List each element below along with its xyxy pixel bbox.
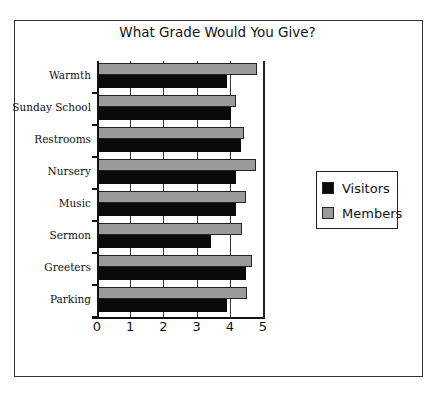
members-bar — [98, 287, 247, 299]
category-label: Sunday School — [0, 101, 91, 113]
visitors-bar — [98, 299, 227, 312]
visitors-bar — [98, 75, 227, 88]
members-bar — [98, 127, 244, 139]
visitors-bar — [98, 267, 246, 280]
category-label: Greeters — [0, 261, 91, 273]
visitors-bar — [98, 139, 241, 152]
members-bar — [98, 159, 256, 171]
right-border-line — [263, 61, 265, 318]
visitors-swatch-icon — [322, 182, 334, 194]
x-tick-label: 4 — [220, 319, 240, 334]
y-axis — [97, 61, 99, 319]
category-label: Nursery — [0, 165, 91, 177]
x-axis — [92, 317, 265, 319]
x-tick-label: 5 — [253, 319, 273, 334]
x-tick-label: 1 — [120, 319, 140, 334]
members-bar — [98, 63, 257, 75]
legend: Visitors Members — [316, 171, 398, 229]
category-label: Warmth — [0, 69, 91, 81]
x-tick-label: 2 — [153, 319, 173, 334]
members-bar — [98, 95, 236, 107]
x-tick-label: 0 — [87, 319, 107, 334]
category-label: Sermon — [0, 229, 91, 241]
visitors-bar — [98, 203, 236, 216]
chart-title: What Grade Would You Give? — [0, 24, 435, 40]
category-label: Music — [0, 197, 91, 209]
category-label: Restrooms — [0, 133, 91, 145]
x-tick-label: 3 — [187, 319, 207, 334]
legend-label: Members — [342, 206, 402, 221]
visitors-bar — [98, 171, 236, 184]
members-bar — [98, 255, 252, 267]
members-bar — [98, 191, 246, 203]
members-swatch-icon — [322, 207, 334, 219]
members-bar — [98, 223, 242, 235]
legend-item-visitors: Visitors — [322, 180, 390, 196]
legend-item-members: Members — [322, 205, 402, 221]
visitors-bar — [98, 107, 231, 120]
category-label: Parking — [0, 293, 91, 305]
legend-label: Visitors — [342, 181, 390, 196]
visitors-bar — [98, 235, 211, 248]
